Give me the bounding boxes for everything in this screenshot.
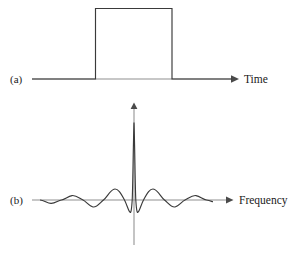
figure-svg: (a) Time (b) Frequency [0,0,298,262]
panel-b-group: (b) Frequency [10,103,288,246]
panel-a-label: (a) [10,73,23,86]
time-axis-label: Time [244,73,268,85]
frequency-axis-label: Frequency [239,194,288,207]
panel-b-label: (b) [10,194,23,207]
figure-container: (a) Time (b) Frequency [0,0,298,262]
sinc-function-curve [40,123,213,213]
time-axis-arrowhead [231,75,239,83]
amplitude-axis-arrowhead [131,103,138,110]
rectangular-pulse-curve [32,9,232,80]
frequency-axis-arrowhead [226,196,234,203]
panel-a-group: (a) Time [10,9,268,86]
